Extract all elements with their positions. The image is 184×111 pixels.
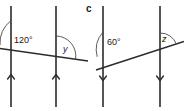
right-diagram-group [96,6,184,107]
right-known-angle-label: 60° [107,38,121,47]
left-known-angle-label: 120° [14,36,33,45]
left-angle-arc-120 [0,21,11,46]
geometry-canvas [0,0,184,111]
geometry-figure: 120° y c 60° z [0,0,184,111]
left-diagram-group [0,6,88,107]
right-angle-arc-60 [96,32,103,57]
part-label-c: c [86,4,92,14]
right-unknown-angle-label: z [162,35,167,44]
left-unknown-angle-label: y [63,45,68,54]
